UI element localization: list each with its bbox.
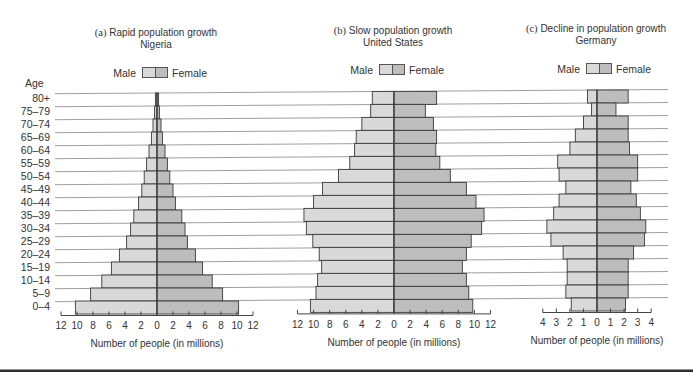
female-bar — [394, 234, 471, 247]
male-bar — [355, 143, 394, 156]
legend-female-label: Female — [172, 67, 207, 79]
male-bar — [547, 220, 597, 233]
age-group-label: 25–29 — [21, 235, 50, 247]
legend-male-swatch — [143, 68, 156, 77]
x-axis-title: Number of people (in millions) — [328, 337, 461, 348]
x-tick-label: 6 — [202, 320, 208, 331]
male-bar — [151, 132, 157, 145]
x-tick-label: 12 — [55, 320, 67, 331]
male-bar — [318, 273, 394, 286]
age-axis: Age80+75–7970–7465–6960–6455–5950–5445–4… — [21, 77, 50, 313]
female-bar — [157, 197, 175, 210]
x-tick-label: 2 — [138, 320, 144, 331]
legend-male-label: Male — [350, 64, 373, 76]
age-axis-title: Age — [25, 77, 44, 89]
x-tick-label: 4 — [186, 320, 192, 331]
legend-united-states: Male Female — [379, 64, 405, 75]
x-tick-label: 12 — [485, 319, 497, 330]
female-bar — [157, 288, 223, 301]
legend-male-label: Male — [557, 63, 580, 75]
female-bar — [597, 207, 640, 220]
x-tick-label: 10 — [469, 319, 481, 330]
male-bar — [566, 181, 597, 194]
female-bar — [394, 260, 462, 273]
x-tick-label: 6 — [439, 319, 445, 330]
age-group-label: 80+ — [32, 92, 50, 104]
male-bar — [570, 142, 597, 155]
panel-title-text: Decline in population growth — [540, 23, 666, 34]
female-bar — [597, 220, 646, 233]
x-axis-title: Number of people (in millions) — [91, 338, 224, 349]
male-bar — [75, 301, 157, 314]
female-bar — [597, 181, 631, 194]
legend-germany: Male Female — [586, 63, 612, 74]
male-bar — [139, 197, 157, 210]
male-bar — [567, 259, 597, 272]
panel-title-text: Slow population growth — [349, 25, 452, 36]
x-tick-label: 0 — [154, 320, 160, 331]
female-bar — [394, 299, 473, 312]
female-bar — [394, 195, 476, 208]
female-bar — [597, 285, 628, 298]
panel-country: Nigeria — [95, 39, 217, 51]
x-tick-label: 8 — [327, 319, 333, 330]
female-bar — [394, 221, 482, 234]
age-group-label: 10–14 — [21, 274, 50, 286]
male-bar — [551, 233, 597, 246]
female-bar — [597, 168, 638, 181]
male-bar — [102, 275, 157, 288]
male-bar — [319, 247, 394, 260]
female-bar — [394, 130, 437, 143]
x-tick-label: 1 — [581, 317, 587, 328]
male-bar — [127, 236, 157, 249]
x-tick-label: 8 — [90, 320, 96, 331]
female-bar — [597, 298, 625, 311]
male-bar — [304, 208, 394, 221]
x-tick-label: 4 — [648, 317, 654, 328]
female-bar — [157, 249, 195, 262]
female-bar — [157, 158, 167, 171]
male-bar — [322, 260, 394, 273]
pyramid-plot-area: Age80+75–7970–7465–6960–6455–5950–5445–4… — [0, 0, 693, 373]
male-bar — [583, 116, 597, 129]
male-bar — [567, 272, 597, 285]
age-group-label: 20–24 — [21, 248, 50, 260]
age-group-label: 40–44 — [21, 196, 50, 208]
legend-female-label: Female — [409, 64, 444, 76]
male-bar — [111, 262, 157, 275]
x-tick-label: 10 — [71, 320, 83, 331]
male-bar — [592, 103, 597, 116]
female-bar — [157, 171, 170, 184]
x-tick-label: 2 — [567, 317, 573, 328]
male-bar — [554, 207, 597, 220]
male-bar — [339, 169, 394, 182]
male-bar — [147, 158, 157, 171]
panel-title-united-states: (b) Slow population growth United States — [334, 25, 452, 49]
male-bar — [134, 210, 157, 223]
legend-female-swatch — [600, 64, 612, 73]
male-bar — [149, 145, 157, 158]
male-bar — [144, 171, 157, 184]
male-bar — [142, 184, 157, 197]
male-bar — [563, 246, 597, 259]
male-bar — [316, 286, 394, 299]
male-bar — [306, 221, 394, 234]
age-group-label: 30–34 — [21, 222, 50, 234]
female-bar — [597, 116, 628, 129]
male-bar — [372, 91, 394, 104]
x-tick-label: 8 — [456, 319, 462, 330]
male-bar — [575, 129, 597, 142]
male-bar — [566, 285, 597, 298]
panel-title-text: Rapid population growth — [109, 27, 217, 38]
female-bar — [597, 129, 628, 142]
male-bar — [571, 298, 597, 311]
female-bar — [597, 259, 628, 272]
age-group-label: 60–64 — [21, 144, 50, 156]
grid-line — [55, 103, 668, 107]
male-bar — [313, 234, 394, 247]
female-bar — [597, 246, 634, 259]
female-bar — [394, 208, 484, 221]
legend-male-swatch — [587, 64, 600, 73]
female-bar — [157, 184, 173, 197]
legend-female-swatch — [393, 65, 405, 74]
